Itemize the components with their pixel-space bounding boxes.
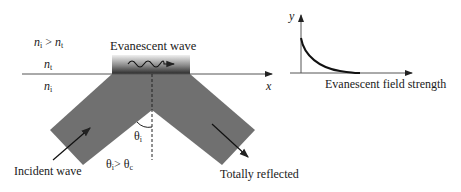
totally-reflected-label: Totally reflected xyxy=(220,168,299,180)
reflected-beam xyxy=(152,74,255,165)
incident-wave-label: Incident wave xyxy=(14,165,82,177)
lower-medium-label: ni xyxy=(44,80,52,94)
index-condition: ni > nt xyxy=(34,36,63,50)
upper-medium-label: nt xyxy=(44,58,52,72)
decay-curve xyxy=(301,38,360,73)
inset-caption: Evanescent field strength xyxy=(325,78,446,90)
x-axis-label: x xyxy=(266,80,271,92)
incident-beam xyxy=(50,74,152,165)
angle-arc xyxy=(137,122,152,127)
angle-label: θi xyxy=(134,130,142,144)
inset-y-label: y xyxy=(289,10,294,22)
evanescent-wave-label: Evanescent wave xyxy=(110,40,196,53)
critical-angle-condition: θi> θc xyxy=(106,158,133,172)
evanescent-region xyxy=(112,55,190,74)
